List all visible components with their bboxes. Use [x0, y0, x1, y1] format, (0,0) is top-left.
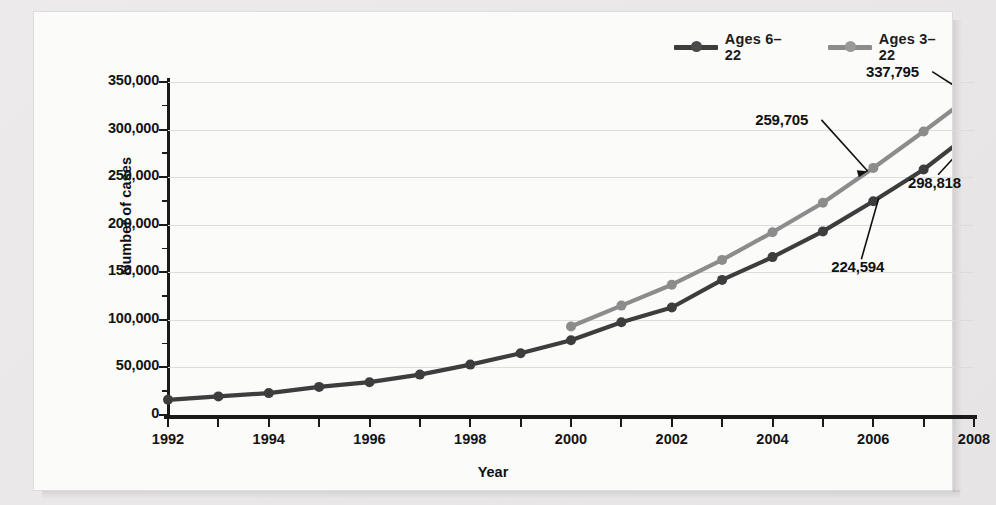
x-tick-label: 2008 — [958, 431, 990, 447]
panel-shadow-bottom — [42, 490, 960, 499]
y-tick — [159, 366, 168, 368]
x-tick-label: 1994 — [253, 431, 285, 447]
data-point — [314, 382, 324, 392]
annotation-leader-line — [861, 198, 878, 259]
legend-label-ages-6-22: Ages 6–22 — [725, 31, 798, 63]
x-tick — [772, 418, 774, 427]
y-tick — [159, 176, 168, 178]
gridline — [168, 130, 974, 131]
y-tick-label: 250,000 — [63, 167, 159, 183]
y-tick-label: 350,000 — [63, 72, 159, 88]
x-tick — [822, 418, 824, 427]
y-tick-label: 200,000 — [63, 215, 159, 231]
data-point — [919, 127, 929, 137]
gridline — [168, 367, 974, 368]
annotation-leader-line — [932, 72, 952, 95]
annotation-leader-line — [938, 128, 952, 174]
data-point — [264, 388, 274, 398]
x-tick — [268, 418, 270, 427]
annotation-leader-line — [821, 120, 867, 171]
y-tick-minor — [162, 295, 168, 297]
annotation-label: 298,818 — [908, 174, 961, 191]
chart-panel: Ages 6–22 Ages 3–22 Number of cases Year… — [34, 12, 952, 490]
data-point — [868, 196, 878, 206]
chart-background: Ages 6–22 Ages 3–22 Number of cases Year… — [0, 0, 996, 505]
y-tick-minor — [162, 200, 168, 202]
data-point — [516, 348, 526, 358]
y-tick — [159, 319, 168, 321]
y-tick-minor — [162, 390, 168, 392]
x-tick-label: 2002 — [656, 431, 688, 447]
data-point — [616, 317, 626, 327]
data-point — [768, 227, 778, 237]
y-tick — [159, 129, 168, 131]
data-point — [415, 370, 425, 380]
x-tick-label: 1998 — [454, 431, 486, 447]
x-tick — [167, 418, 169, 427]
data-point — [365, 377, 375, 387]
series-line-1 — [571, 94, 952, 327]
annotation-label: 259,705 — [755, 111, 808, 128]
x-tick — [469, 418, 471, 427]
y-tick — [159, 81, 168, 83]
data-point — [616, 301, 626, 311]
legend-swatch-ages-6-22 — [674, 41, 718, 53]
data-point — [717, 275, 727, 285]
x-tick — [721, 418, 723, 427]
data-point — [566, 335, 576, 345]
x-tick — [318, 418, 320, 427]
x-tick-label: 2000 — [555, 431, 587, 447]
x-tick-label: 2006 — [857, 431, 889, 447]
y-tick-label: 100,000 — [63, 310, 159, 326]
x-axis-title: Year — [34, 464, 952, 480]
y-tick-label: 0 — [63, 405, 159, 421]
x-tick-label: 2004 — [756, 431, 788, 447]
y-tick-label: 150,000 — [63, 262, 159, 278]
x-tick — [520, 418, 522, 427]
y-tick-minor — [162, 105, 168, 107]
x-tick — [923, 418, 925, 427]
data-point — [566, 322, 576, 332]
legend-item-ages-3-22[interactable]: Ages 3–22 — [828, 31, 952, 63]
x-tick-label: 1992 — [152, 431, 184, 447]
y-tick-minor — [162, 343, 168, 345]
x-tick — [369, 418, 371, 427]
gridline — [168, 82, 974, 83]
y-tick-minor — [162, 248, 168, 250]
legend-item-ages-6-22[interactable]: Ages 6–22 — [674, 31, 798, 63]
data-point — [818, 198, 828, 208]
data-point — [213, 391, 223, 401]
annotation-label: 224,594 — [831, 258, 884, 275]
data-point — [667, 303, 677, 313]
x-tick — [217, 418, 219, 427]
data-point — [667, 280, 677, 290]
gridline — [168, 177, 974, 178]
y-tick-label: 50,000 — [63, 357, 159, 373]
y-tick-label: 300,000 — [63, 120, 159, 136]
y-tick — [159, 224, 168, 226]
gridline — [168, 320, 974, 321]
x-tick — [872, 418, 874, 427]
data-point — [868, 163, 878, 173]
gridline — [168, 225, 974, 226]
annotation-label: 337,795 — [866, 63, 919, 80]
x-tick — [973, 418, 975, 427]
x-tick — [671, 418, 673, 427]
data-point — [818, 226, 828, 236]
chart-legend: Ages 6–22 Ages 3–22 — [674, 34, 952, 60]
legend-swatch-ages-3-22 — [828, 41, 872, 53]
data-point — [768, 252, 778, 262]
panel-shadow-right — [952, 20, 962, 492]
y-tick — [159, 414, 168, 416]
y-tick — [159, 271, 168, 273]
x-tick — [419, 418, 421, 427]
x-tick — [620, 418, 622, 427]
x-tick-label: 1996 — [353, 431, 385, 447]
data-point — [717, 255, 727, 265]
legend-label-ages-3-22: Ages 3–22 — [879, 31, 952, 63]
x-tick — [570, 418, 572, 427]
y-tick-minor — [162, 152, 168, 154]
